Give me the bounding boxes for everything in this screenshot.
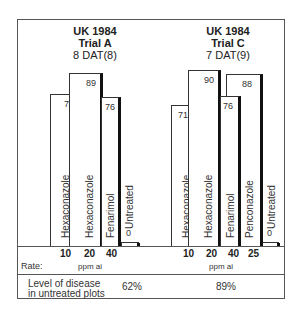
bar-value: 89: [86, 78, 96, 88]
bar-trial-a-untreated: [121, 242, 139, 246]
trial-c-rate-40: 40: [228, 248, 239, 259]
baseline: [17, 246, 285, 247]
trial-a-disease-level: 62%: [122, 282, 142, 292]
trial-c-untreated-label: Untreated: [266, 185, 277, 229]
trial-a-untreated-label: Untreated: [124, 185, 135, 229]
trial-c-rate-25: 25: [248, 248, 259, 259]
trial-c-untreated-value: 0: [267, 228, 272, 238]
bar-label: Fenarimol: [105, 194, 116, 238]
bar-label: Penconazole: [243, 180, 254, 238]
trial-a-rate-20: 20: [84, 248, 95, 259]
footer-divider: [17, 274, 285, 275]
bar-value: 76: [105, 102, 115, 112]
trial-a-title: UK 1984 Trial A 8 DAT(8): [55, 25, 135, 61]
bar-value: 76: [223, 101, 233, 111]
trial-c-disease-level: 89%: [216, 282, 236, 292]
bar-label: Fenarimol: [224, 194, 235, 238]
bar-trial-c-hexaconazole-20: 90 Hexaconazole: [188, 70, 221, 246]
trial-a-rate-10: 10: [60, 248, 71, 259]
trial-c-rate-20: 20: [206, 248, 217, 259]
trial-c-title: UK 1984 Trial C 7 DAT(9): [188, 25, 268, 61]
bar-trial-a-fenarimol-40: 76 Fenarimol: [101, 97, 121, 246]
trial-a-unit: ppm ai: [78, 262, 102, 271]
trial-c-rate-10: 10: [183, 248, 194, 259]
bar-value: 90: [204, 75, 214, 85]
trial-a-rate-40: 40: [106, 248, 117, 259]
bar-value: 88: [242, 79, 252, 89]
bar-value: 71: [178, 110, 188, 120]
disease-label: Level of disease in untreated plots: [28, 279, 105, 299]
trial-a-untreated-value: 0: [126, 228, 131, 238]
bar-trial-c-fenarimol-40: 76 Fenarimol: [220, 96, 241, 246]
bar-trial-a-hexaconazole-20: 89 Hexaconazole: [69, 73, 103, 246]
rate-label: Rate:: [21, 261, 43, 271]
bar-label: Hexaconazole: [83, 175, 94, 238]
bar-label: Hexaconazole: [203, 175, 214, 238]
trial-c-unit: ppm ai: [209, 262, 233, 271]
bar-trial-c-untreated: [262, 242, 279, 246]
